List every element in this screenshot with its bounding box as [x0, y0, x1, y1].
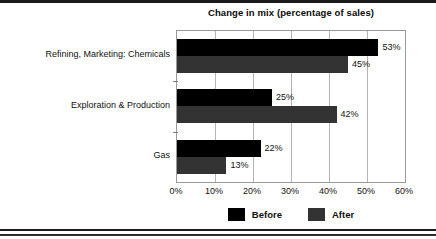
category-label: Exploration & Production — [0, 100, 170, 110]
page-rule-top — [0, 0, 436, 3]
chart-title: Change in mix (percentage of sales) — [176, 7, 406, 18]
legend-item[interactable]: After — [308, 208, 354, 221]
page-rule-bottom — [0, 229, 436, 231]
category-label: Gas — [0, 150, 170, 160]
x-tick-label: 60% — [395, 186, 413, 196]
category-axis-labels: Refining, Marketing: ChemicalsExploratio… — [0, 30, 436, 183]
x-tick-label: 40% — [319, 186, 337, 196]
category-label: Refining, Marketing: Chemicals — [0, 49, 170, 59]
legend-item[interactable]: Before — [228, 208, 282, 221]
x-tick-label: 50% — [357, 186, 375, 196]
x-axis-tick-labels: 0%10%20%30%40%50%60% — [176, 186, 406, 200]
x-tick-label: 10% — [205, 186, 223, 196]
chart-figure: Change in mix (percentage of sales) 53%4… — [0, 0, 436, 239]
legend-swatch-before — [228, 208, 245, 221]
x-tick-label: 0% — [169, 186, 182, 196]
page-rule-bottom-secondary — [0, 234, 436, 236]
x-tick-label: 20% — [243, 186, 261, 196]
x-tick-label: 30% — [281, 186, 299, 196]
legend-label: After — [332, 209, 354, 220]
legend-label: Before — [252, 209, 282, 220]
legend-swatch-after — [308, 208, 325, 221]
chart-legend: BeforeAfter — [176, 205, 406, 223]
